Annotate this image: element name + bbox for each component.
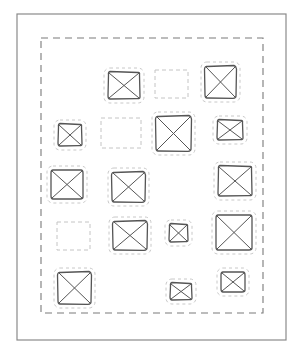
- image-placeholder: [104, 68, 144, 103]
- image-placeholder: [213, 116, 247, 144]
- empty-placeholder: [101, 118, 141, 148]
- image-placeholder: [54, 268, 95, 308]
- image-placeholder: [212, 211, 256, 254]
- empty-placeholder: [57, 222, 90, 250]
- placeholder-group: [47, 62, 256, 308]
- wireframe-canvas: [0, 0, 297, 353]
- image-placeholder: [47, 166, 87, 203]
- image-placeholder: [166, 279, 196, 304]
- image-placeholder: [217, 268, 249, 296]
- empty-placeholder: [155, 70, 188, 98]
- image-placeholder: [109, 217, 151, 254]
- image-placeholder: [214, 162, 256, 200]
- image-placeholder: [201, 62, 240, 102]
- image-placeholder: [54, 120, 86, 150]
- image-placeholder: [152, 112, 195, 155]
- image-placeholder: [108, 168, 149, 206]
- image-placeholder: [165, 220, 192, 246]
